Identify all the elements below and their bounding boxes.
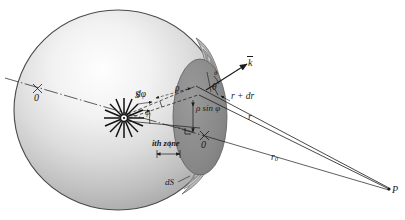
label-d-phi: dφ [136,90,146,100]
fresnel-zone-diagram: 0 S dφ φ ρ k θ θ r + dr r ρ sin φ 0 ith … [0,0,405,220]
label-r: r [248,113,252,123]
label-theta: θ [212,83,217,93]
k-overbar: k [248,58,252,68]
axis-line-to-p [205,136,389,190]
observation-point-p [387,187,390,190]
label-rho-sin-phi: ρ sin φ [196,104,220,113]
label-point-p: P [392,185,398,195]
label-phi: φ [145,108,150,117]
label-o-prime: 0 [34,93,39,103]
label-r-plus-dr: r + dr [231,92,254,102]
label-ith-zone: ith zone [152,139,180,148]
label-origin-o: 0 [201,140,206,150]
label-theta-small: θ [214,70,217,77]
inner-zone-disc [173,59,227,175]
label-r-zero: r0 [271,153,278,163]
label-dS: dS [165,178,174,187]
r-zero-subscript: 0 [275,155,278,162]
label-rho: ρ [175,84,180,94]
ray-r [199,95,389,189]
label-k-vector: k [248,58,252,68]
